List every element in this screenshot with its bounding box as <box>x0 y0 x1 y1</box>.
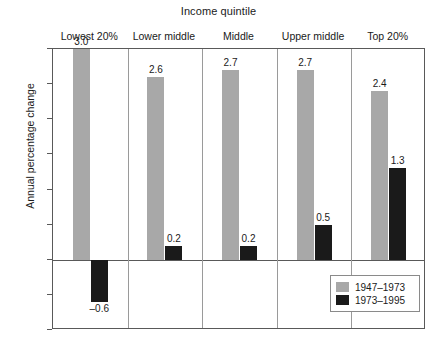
bar <box>222 70 239 260</box>
y-tick: –0.5 <box>0 294 52 295</box>
bar-value-label: 1.3 <box>379 155 416 166</box>
bar-value-label: 2.7 <box>287 57 324 68</box>
y-tick-mark <box>47 329 52 330</box>
bar <box>315 225 332 260</box>
y-tick: 0 <box>0 259 52 260</box>
y-tick: 2.0 <box>0 118 52 119</box>
y-tick: 1.0 <box>0 189 52 190</box>
bar-value-label: 2.4 <box>361 78 398 89</box>
legend-item: 1973–1995 <box>336 294 414 306</box>
bar <box>240 246 257 260</box>
bar <box>389 168 406 259</box>
panel-divider <box>128 49 129 328</box>
bar-value-label: 2.7 <box>212 57 249 68</box>
legend-swatch <box>336 295 349 305</box>
panel-header-1: Lower middle <box>127 30 202 42</box>
panel-header-4: Top 20% <box>350 30 425 42</box>
bar <box>371 91 388 260</box>
legend-label: 1973–1995 <box>355 295 405 306</box>
bar-value-label: 0.5 <box>305 212 342 223</box>
legend-item: 1947–1973 <box>336 281 414 293</box>
panel-header-2: Middle <box>201 30 276 42</box>
panel-header-0: Lowest 20% <box>52 30 127 42</box>
y-tick: 3.0 <box>0 48 52 49</box>
legend-label: 1947–1973 <box>355 282 405 293</box>
bar-value-label: 0.2 <box>230 233 267 244</box>
chart-legend: 1947–19731973–1995 <box>330 275 420 312</box>
bar <box>297 70 314 260</box>
y-tick: 2.5 <box>0 83 52 84</box>
y-tick: –1.0 <box>0 329 52 330</box>
bar <box>73 49 90 260</box>
bar-chart: Income quintile Annual percentage change… <box>0 0 437 345</box>
chart-title: Income quintile <box>0 5 437 17</box>
panel-divider <box>202 49 203 328</box>
bar-value-label: 2.6 <box>137 64 174 75</box>
bar <box>165 246 182 260</box>
bar <box>91 260 108 302</box>
y-tick: 0.5 <box>0 224 52 225</box>
bar-value-label: 0.2 <box>155 233 192 244</box>
bar-value-label: –0.6 <box>81 303 118 314</box>
y-tick: 1.5 <box>0 153 52 154</box>
zero-baseline <box>53 260 424 261</box>
panel-header-3: Upper middle <box>276 30 351 42</box>
panel-divider <box>277 49 278 328</box>
legend-swatch <box>336 282 349 292</box>
